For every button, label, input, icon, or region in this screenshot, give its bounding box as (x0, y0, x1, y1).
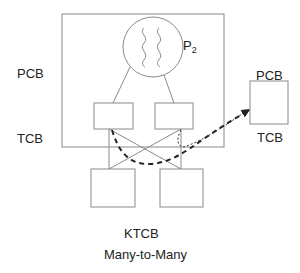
process-label-subscript: 2 (192, 45, 197, 55)
thread-wave-icon (157, 28, 160, 67)
diagram-title: Many-to-Many (104, 248, 187, 261)
remote-process-box (250, 81, 288, 124)
process-circle (123, 17, 183, 77)
kernel-thread-left (91, 169, 135, 207)
left-pcb-label: PCB (17, 67, 44, 80)
right-tcb-label: TCB (257, 131, 283, 144)
user-thread-right (155, 103, 193, 129)
right-pcb-label: PCB (256, 69, 283, 82)
thread-wave-icon (142, 28, 145, 67)
process-label-letter: P (183, 38, 192, 53)
left-tcb-label: TCB (17, 132, 43, 145)
kernel-label: KTCB (124, 227, 159, 240)
user-thread-left (94, 103, 133, 129)
kernel-thread-right (160, 169, 203, 207)
process-label: P2 (183, 39, 197, 55)
